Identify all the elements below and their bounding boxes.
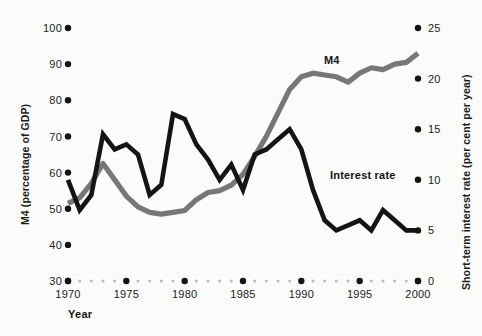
right-tick-label: 5	[428, 224, 434, 236]
left-tick-label: 50	[49, 203, 62, 215]
x-tick-dot-minor	[405, 280, 408, 283]
x-tick-dot-minor	[172, 280, 175, 283]
x-tick-dot-minor	[148, 280, 151, 283]
x-tick-dot-major	[240, 278, 246, 284]
right-tick-dot	[415, 126, 421, 132]
x-tick-dot-minor	[160, 280, 163, 283]
left-tick-label: 90	[49, 58, 62, 70]
left-tick-dot	[65, 242, 71, 248]
x-tick-dot-minor	[207, 280, 210, 283]
x-tick-dot-major	[298, 278, 304, 284]
x-tick-dot-minor	[382, 280, 385, 283]
chart-svg: 100 90 80 70 60 50 40 30 M4 (percentage …	[0, 0, 482, 336]
x-tick-dot-minor	[323, 280, 326, 283]
left-tick-label: 80	[49, 94, 62, 106]
left-tick-dot	[65, 61, 71, 67]
x-tick-dot-minor	[113, 280, 116, 283]
left-tick-label: 30	[49, 275, 62, 287]
right-tick-label: 20	[428, 73, 441, 85]
right-tick-label: 25	[428, 22, 441, 34]
x-tick-dot-minor	[265, 280, 268, 283]
x-tick-dot-major	[123, 278, 129, 284]
right-tick-dot	[415, 75, 421, 81]
right-axis: 25 20 15 10 5 0 Short-term interest rate…	[415, 22, 472, 290]
right-tick-label: 0	[428, 275, 434, 287]
x-tick-dot-minor	[347, 280, 350, 283]
x-tick-dot-minor	[218, 280, 221, 283]
x-tick-dot-major	[181, 278, 187, 284]
x-tick-dot-minor	[393, 280, 396, 283]
x-tick-label: 1970	[55, 288, 80, 300]
x-tick-label: 1990	[289, 288, 314, 300]
x-axis-labels: 1970197519801985199019952000	[55, 288, 430, 300]
x-tick-dot-minor	[102, 280, 105, 283]
x-tick-dot-minor	[335, 280, 338, 283]
x-tick-dot-minor	[370, 280, 373, 283]
x-tick-label: 2000	[405, 288, 430, 300]
x-tick-dot-minor	[288, 280, 291, 283]
chart-figure: 100 90 80 70 60 50 40 30 M4 (percentage …	[0, 0, 482, 336]
x-tick-dot-major	[356, 278, 362, 284]
x-axis-title: Year	[68, 308, 93, 320]
x-tick-dot-minor	[78, 280, 81, 283]
right-tick-label: 10	[428, 174, 441, 186]
left-tick-dot	[65, 169, 71, 175]
left-axis-title: M4 (percentage of GDP)	[19, 104, 31, 225]
x-tick-dot-minor	[137, 280, 140, 283]
x-tick-dot-major	[65, 278, 71, 284]
x-tick-label: 1980	[172, 288, 197, 300]
left-tick-label: 40	[49, 239, 62, 251]
x-tick-dot-minor	[312, 280, 315, 283]
left-tick-dot	[65, 97, 71, 103]
right-tick-dot	[415, 177, 421, 183]
right-tick-label: 15	[428, 123, 441, 135]
x-tick-label: 1985	[230, 288, 255, 300]
x-tick-label: 1975	[114, 288, 139, 300]
left-tick-dot	[65, 206, 71, 212]
left-tick-label: 100	[43, 22, 62, 34]
x-tick-dot-minor	[195, 280, 198, 283]
x-tick-dot-minor	[230, 280, 233, 283]
left-tick-label: 70	[49, 131, 62, 143]
interest-rate-series-label: Interest rate	[330, 169, 396, 181]
left-axis: 100 90 80 70 60 50 40 30 M4 (percentage …	[19, 22, 71, 287]
x-tick-dot-major	[415, 278, 421, 284]
x-tick-dot-minor	[253, 280, 256, 283]
m4-series-label: M4	[324, 54, 340, 66]
x-axis-dots	[65, 278, 421, 284]
x-tick-dot-minor	[277, 280, 280, 283]
left-tick-label: 60	[49, 167, 62, 179]
x-tick-label: 1995	[347, 288, 372, 300]
left-tick-dot	[65, 25, 71, 31]
right-tick-dot	[415, 25, 421, 31]
x-tick-dot-minor	[90, 280, 93, 283]
left-tick-dot	[65, 133, 71, 139]
right-axis-title: Short-term interest rate (per cent per y…	[460, 74, 472, 290]
